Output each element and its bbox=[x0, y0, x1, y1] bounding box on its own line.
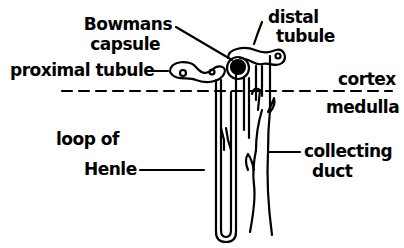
bowmans-capsule-label-line1: Bowmans bbox=[80, 15, 172, 33]
loop-of-henle-label-line2: Henle bbox=[84, 160, 137, 178]
loop-of-henle-label-line1: loop of bbox=[56, 130, 119, 148]
nephron-drawing bbox=[0, 0, 404, 248]
bowmans-leader-line bbox=[176, 27, 232, 60]
distal-tubule-label-line2: tubule bbox=[276, 27, 335, 45]
distal-leader-line bbox=[254, 22, 262, 44]
distal-tubule-label-line1: distal bbox=[268, 8, 319, 26]
cortex-label: cortex bbox=[338, 70, 396, 88]
nephron-diagram: Bowmans capsule proximal tubule distal t… bbox=[0, 0, 404, 248]
bowmans-capsule-label-line2: capsule bbox=[70, 35, 160, 53]
collecting-duct-label-line1: collecting bbox=[304, 142, 392, 160]
medulla-label: medulla bbox=[326, 98, 399, 116]
proximal-tubule-label: proximal tubule bbox=[10, 61, 154, 79]
collecting-duct-label-line2: duct bbox=[312, 162, 352, 180]
